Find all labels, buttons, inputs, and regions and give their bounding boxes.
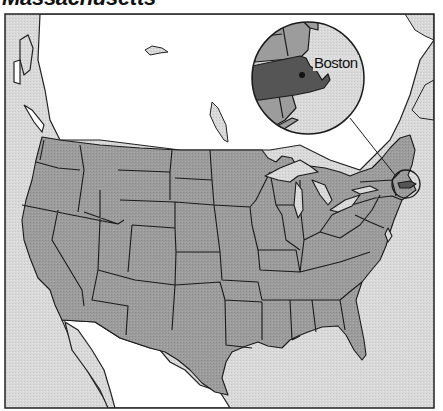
us-map: [0, 0, 443, 411]
ocean: [5, 14, 434, 408]
boston-label: Boston: [313, 55, 359, 71]
boston-dot: [299, 72, 305, 78]
